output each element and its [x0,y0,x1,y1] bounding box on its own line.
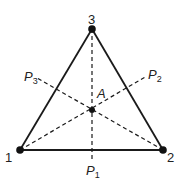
triangle-edges [20,29,163,150]
p3-base: P [24,69,33,84]
p2-label: P2 [148,67,162,84]
p2-sub: 2 [157,74,162,84]
p3-label: P3 [24,69,38,86]
median-1-p2 [20,76,147,150]
vertex-3-label: 3 [88,12,95,27]
center-a-label: A [96,86,106,101]
vertex-1-dot [16,146,24,154]
p3-sub: 3 [33,76,38,86]
dashed-lines [20,29,163,162]
vertex-2-label: 2 [167,150,174,165]
center-a-dot [89,107,95,113]
vertex-2-dot [159,146,167,154]
p1-base: P [86,163,95,178]
p2-base: P [148,67,157,82]
vertex-1-label: 1 [5,150,12,165]
triangle-diagram: 1 2 3 A P3 P2 P1 [0,0,184,185]
p1-label: P1 [86,163,100,180]
p1-sub: 1 [95,170,100,180]
